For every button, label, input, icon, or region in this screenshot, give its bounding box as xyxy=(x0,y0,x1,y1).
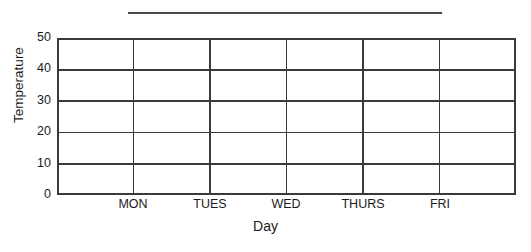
x-tick-label-fri: FRI xyxy=(395,198,485,211)
y-tick-label-10: 10 xyxy=(25,157,51,170)
grid-svg xyxy=(57,38,516,195)
title-blank-line xyxy=(128,12,442,14)
chart-title xyxy=(128,0,442,11)
chart-container: Temperature 50 40 30 20 10 0 xyxy=(0,0,531,252)
y-tick-label-40: 40 xyxy=(25,62,51,75)
y-tick-label-50: 50 xyxy=(25,31,51,44)
vertical-gridlines xyxy=(58,38,515,195)
y-tick-label-0: 0 xyxy=(25,188,51,201)
plot-area xyxy=(57,38,516,195)
x-axis-title: Day xyxy=(0,219,531,234)
y-axis-title: Temperature xyxy=(12,15,26,155)
y-tick-label-30: 30 xyxy=(25,94,51,107)
y-tick-label-20: 20 xyxy=(25,125,51,138)
